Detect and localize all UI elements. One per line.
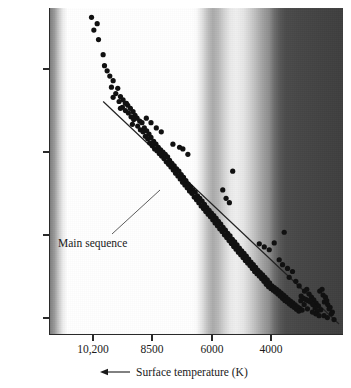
star-point xyxy=(326,306,331,311)
star-point xyxy=(325,315,330,320)
star-point xyxy=(96,37,101,42)
star-point xyxy=(290,269,295,274)
star-point xyxy=(277,257,282,262)
star-point xyxy=(115,86,120,91)
star-point xyxy=(227,200,232,205)
main-sequence-label: Main sequence xyxy=(58,236,127,250)
x-tick-mark xyxy=(92,335,93,341)
star-point xyxy=(154,125,159,130)
star-point xyxy=(130,122,135,127)
main-sequence-leader-line xyxy=(110,188,162,236)
star-point xyxy=(280,262,285,267)
star-point xyxy=(159,129,164,134)
star-point xyxy=(144,116,149,121)
star-point xyxy=(257,241,262,246)
star-point xyxy=(272,240,277,245)
star-point xyxy=(298,298,303,303)
star-point xyxy=(331,317,336,322)
star-point xyxy=(105,68,110,73)
star-point xyxy=(267,247,272,252)
star-point xyxy=(304,287,309,292)
star-point xyxy=(230,169,235,174)
star-point xyxy=(285,266,290,271)
star-point xyxy=(310,309,315,314)
y-tick-mark xyxy=(43,151,50,152)
y-tick-mark xyxy=(43,68,50,69)
star-point xyxy=(140,129,145,134)
star-point xyxy=(282,230,287,235)
star-point xyxy=(180,146,185,151)
star-point xyxy=(185,152,190,157)
scatter-data-layer xyxy=(50,8,344,335)
star-point xyxy=(118,106,123,111)
star-point xyxy=(148,120,153,125)
star-point xyxy=(91,28,96,33)
hr-diagram-figure: 1021010.1 10,200850060004000 Luminosity … xyxy=(0,0,351,388)
star-point xyxy=(124,101,129,106)
plot-area xyxy=(49,8,343,335)
star-point xyxy=(319,287,324,292)
star-point xyxy=(324,298,329,303)
star-point xyxy=(316,313,321,318)
star-point xyxy=(170,142,175,147)
y-tick-mark xyxy=(43,234,50,235)
star-point xyxy=(329,311,334,316)
star-point xyxy=(109,85,114,90)
star-point xyxy=(111,95,116,100)
star-point xyxy=(131,117,136,122)
star-point xyxy=(139,120,144,125)
x-axis-title-group: Surface temperature (K) xyxy=(100,362,300,382)
star-data-points xyxy=(89,15,337,322)
star-point xyxy=(111,78,116,83)
star-point xyxy=(293,279,298,284)
star-point xyxy=(95,21,100,26)
star-point xyxy=(117,99,122,104)
star-point xyxy=(287,275,292,280)
star-point xyxy=(296,308,301,313)
x-tick-label: 4000 xyxy=(231,343,311,355)
left-arrow-icon xyxy=(100,367,130,377)
y-tick-mark xyxy=(43,317,50,318)
x-axis-title: Surface temperature (K) xyxy=(136,365,248,379)
star-point xyxy=(297,283,302,288)
star-point xyxy=(223,196,228,201)
x-tick-mark xyxy=(211,335,212,341)
star-point xyxy=(107,73,112,78)
star-point xyxy=(89,15,94,20)
star-point xyxy=(101,52,106,57)
star-point xyxy=(102,63,107,68)
star-point xyxy=(305,306,310,311)
star-point xyxy=(262,244,267,249)
x-tick-mark xyxy=(151,335,152,341)
y-axis-title-group: Luminosity L☉ xyxy=(0,120,26,290)
star-point xyxy=(220,187,225,192)
x-tick-mark xyxy=(270,335,271,341)
